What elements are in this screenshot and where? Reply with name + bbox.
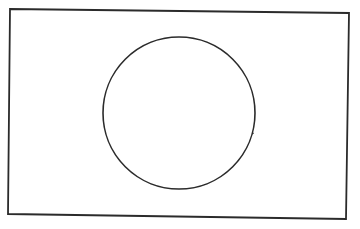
hatched-circle xyxy=(103,37,255,189)
diagram-canvas: Rectangle with hatched circle xyxy=(0,0,360,229)
diagram-figure xyxy=(0,0,360,229)
